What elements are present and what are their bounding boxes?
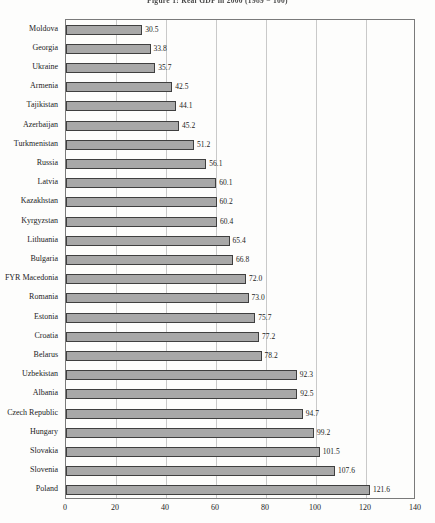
bar-value-label: 99.2: [317, 428, 330, 438]
plot-area: 30.533.835.742.544.145.251.256.160.160.2…: [65, 19, 415, 499]
bar: [66, 313, 255, 323]
category-label: Romania: [0, 292, 58, 302]
bar: [66, 485, 370, 495]
y-axis-labels: MoldovaGeorgiaUkraineArmeniaTajikistanAz…: [0, 19, 61, 499]
bar-value-label: 60.4: [220, 217, 233, 227]
bar: [66, 159, 206, 169]
category-label: Estonia: [0, 312, 58, 322]
category-label: Belarus: [0, 350, 58, 360]
bar: [66, 178, 216, 188]
bar-value-label: 33.8: [154, 44, 167, 54]
category-label: Slovakia: [0, 446, 58, 456]
bar: [66, 447, 320, 457]
x-tick-label: 120: [350, 503, 380, 512]
bar-value-label: 66.8: [236, 255, 249, 265]
category-label: Albania: [0, 388, 58, 398]
bar: [66, 389, 297, 399]
x-tick-label: 80: [250, 503, 280, 512]
bar: [66, 293, 249, 303]
bar-value-label: 101.5: [323, 447, 340, 457]
bar-value-label: 56.1: [209, 159, 222, 169]
category-label: Kazakhstan: [0, 196, 58, 206]
bar: [66, 82, 172, 92]
category-label: Turkmenistan: [0, 139, 58, 149]
x-tick-label: 0: [50, 503, 80, 512]
bar-value-label: 72.0: [249, 274, 262, 284]
bar-value-label: 121.6: [373, 485, 390, 495]
category-label: Tajikistan: [0, 100, 58, 110]
bar: [66, 197, 217, 207]
bar-value-label: 94.7: [306, 409, 319, 419]
bar-value-label: 65.4: [233, 236, 246, 246]
category-label: Slovenia: [0, 465, 58, 475]
x-tick-label: 60: [200, 503, 230, 512]
bar-value-label: 60.1: [219, 178, 232, 188]
x-axis-labels: 020406080100120140: [0, 503, 435, 517]
gridline: [316, 20, 317, 498]
chart: Figure 1: Real GDP in 2000 (1989 = 100) …: [0, 0, 435, 523]
bar-value-label: 60.2: [220, 197, 233, 207]
bar-value-label: 73.0: [252, 293, 265, 303]
bar: [66, 370, 297, 380]
category-label: Georgia: [0, 43, 58, 53]
x-tick-label: 100: [300, 503, 330, 512]
category-label: Uzbekistan: [0, 369, 58, 379]
bar-value-label: 77.2: [262, 332, 275, 342]
bar: [66, 236, 230, 246]
category-label: Azerbaijan: [0, 120, 58, 130]
x-tick-label: 140: [400, 503, 430, 512]
category-label: Kyrgyzstan: [0, 216, 58, 226]
figure-title: Figure 1: Real GDP in 2000 (1989 = 100): [0, 0, 435, 5]
bar-value-label: 51.2: [197, 140, 210, 150]
bar-value-label: 78.2: [265, 351, 278, 361]
category-label: Latvia: [0, 177, 58, 187]
category-label: FYR Macedonia: [0, 273, 58, 283]
bar: [66, 274, 246, 284]
category-label: Armenia: [0, 81, 58, 91]
bar-value-label: 92.3: [300, 370, 313, 380]
bar-value-label: 30.5: [145, 25, 158, 35]
bar-value-label: 75.7: [258, 313, 271, 323]
bar-value-label: 35.7: [158, 63, 171, 73]
category-label: Bulgaria: [0, 254, 58, 264]
bar-value-label: 92.5: [300, 389, 313, 399]
bar: [66, 44, 151, 54]
bar-value-label: 45.2: [182, 121, 195, 131]
x-tick-label: 40: [150, 503, 180, 512]
bar: [66, 409, 303, 419]
category-label: Russia: [0, 158, 58, 168]
gridline: [266, 20, 267, 498]
category-label: Croatia: [0, 331, 58, 341]
bar: [66, 101, 176, 111]
category-label: Ukraine: [0, 62, 58, 72]
bar: [66, 466, 335, 476]
bar: [66, 217, 217, 227]
gridline: [366, 20, 367, 498]
bar: [66, 332, 259, 342]
category-label: Lithuania: [0, 235, 58, 245]
bar: [66, 428, 314, 438]
category-label: Moldova: [0, 24, 58, 34]
category-label: Poland: [0, 484, 58, 494]
bar: [66, 351, 262, 361]
category-label: Czech Republic: [0, 408, 58, 418]
bar: [66, 140, 194, 150]
bar-value-label: 42.5: [175, 82, 188, 92]
bar: [66, 255, 233, 265]
bar: [66, 25, 142, 35]
bar-value-label: 107.6: [338, 466, 355, 476]
x-tick-label: 20: [100, 503, 130, 512]
category-label: Hungary: [0, 427, 58, 437]
bar: [66, 121, 179, 131]
bar-value-label: 44.1: [179, 101, 192, 111]
bar: [66, 63, 155, 73]
